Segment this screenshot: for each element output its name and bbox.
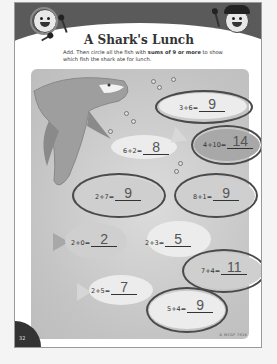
answer: 8 bbox=[143, 141, 169, 155]
cap bbox=[224, 5, 250, 14]
worksheet-page: A Shark's Lunch Add. Then circle all the… bbox=[14, 2, 262, 348]
eye bbox=[232, 17, 235, 20]
answer: 7 bbox=[111, 281, 137, 295]
answer-circle bbox=[191, 125, 262, 165]
expression: 6+2= bbox=[123, 147, 142, 155]
problem-9: 2+5=7 bbox=[91, 281, 137, 295]
boy-character-icon bbox=[225, 9, 249, 33]
expression: 2+3= bbox=[145, 239, 164, 247]
bubble bbox=[157, 85, 162, 90]
instructions-emphasis: sums of 9 or more bbox=[148, 49, 201, 55]
answer-circle bbox=[174, 173, 258, 218]
answer: 2 bbox=[91, 233, 117, 247]
instructions: Add. Then circle all the fish with sums … bbox=[63, 49, 233, 63]
problem-2: 6+2=8 bbox=[123, 141, 169, 155]
answer-circle bbox=[72, 173, 166, 218]
answer: 5 bbox=[165, 233, 191, 247]
bubble bbox=[108, 129, 113, 134]
ocean-scene: 3+6=9 6+2=8 4+10=14 2+7=9 8+1=9 2+0=2 2+… bbox=[31, 69, 249, 339]
expression: 2+5= bbox=[91, 287, 110, 295]
worksheet-title: A Shark's Lunch bbox=[15, 33, 262, 47]
answer-circle bbox=[155, 90, 253, 124]
instructions-text: Add. Then circle all the fish with bbox=[63, 49, 148, 55]
girl-character-icon bbox=[33, 9, 57, 33]
eye bbox=[47, 17, 50, 20]
bubble bbox=[174, 169, 179, 174]
eye bbox=[239, 17, 242, 20]
page-number: 32 bbox=[19, 335, 25, 341]
hair bbox=[30, 7, 58, 35]
bubble bbox=[171, 77, 176, 82]
bubble bbox=[131, 119, 136, 124]
bubble bbox=[151, 79, 156, 84]
problem-6: 2+0=2 bbox=[71, 233, 117, 247]
copyright: © MCGF 7516 bbox=[219, 333, 247, 337]
answer-circle bbox=[146, 287, 228, 333]
expression: 2+0= bbox=[71, 239, 90, 247]
eye bbox=[40, 17, 43, 20]
problem-7: 2+3=5 bbox=[145, 233, 191, 247]
bubble bbox=[178, 161, 183, 166]
bubble bbox=[124, 111, 129, 116]
mouth bbox=[232, 22, 242, 27]
